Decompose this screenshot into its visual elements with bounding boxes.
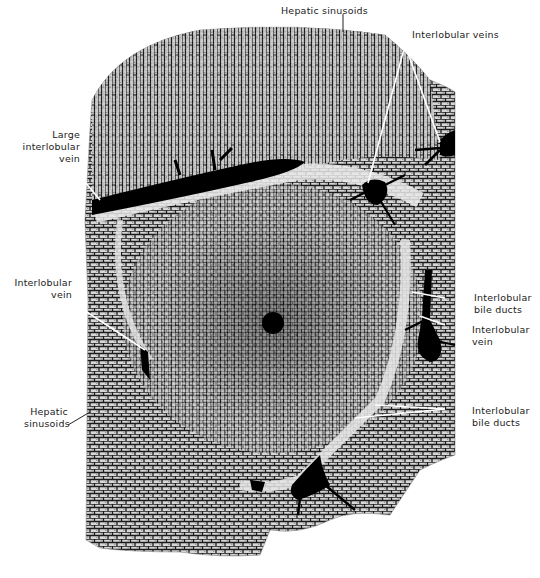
tissue-illustration (0, 0, 540, 578)
label-interlobular-vein-left: Interlobular vein (10, 277, 72, 301)
central-vein (262, 312, 284, 334)
label-large-interlobular-vein: Large interlobular vein (16, 129, 80, 165)
label-hepatic-sinusoids-top: Hepatic sinusoids (281, 5, 368, 17)
label-interlobular-bile-ducts-lower: Interlobular bile ducts (472, 405, 530, 429)
liver-lobule-figure: Hepatic sinusoids Interlobular veins Lar… (0, 0, 540, 578)
label-interlobular-bile-ducts-upper: Interlobular bile ducts (474, 292, 532, 316)
label-hepatic-sinusoids-left: Hepatic sinusoids (24, 406, 68, 430)
label-interlobular-veins-top: Interlobular veins (412, 29, 499, 41)
label-interlobular-vein-right: Interlobular vein (472, 324, 530, 348)
